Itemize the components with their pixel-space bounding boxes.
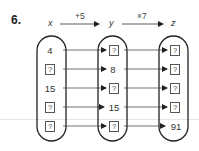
unknown-box[interactable]: ? — [109, 45, 119, 56]
header-var-x: x — [48, 18, 53, 28]
unknown-box[interactable]: ? — [45, 102, 55, 113]
unknown-box[interactable]: ? — [45, 121, 55, 132]
unknown-box[interactable]: ? — [170, 64, 180, 75]
header-var-z: z — [171, 18, 176, 28]
cell-x-5[interactable]: ? — [40, 120, 60, 132]
cell-z-3[interactable]: ? — [165, 82, 185, 94]
cell-z-2[interactable]: ? — [165, 63, 185, 75]
cell-z-5: 91 — [166, 120, 186, 132]
cell-z-1[interactable]: ? — [165, 44, 185, 56]
cell-y-1[interactable]: ? — [104, 44, 124, 56]
cell-y-4: 15 — [104, 101, 124, 113]
unknown-box[interactable]: ? — [45, 64, 55, 75]
header-op-add: +5 — [75, 11, 85, 21]
header-var-y: y — [109, 18, 114, 28]
cell-x-4[interactable]: ? — [40, 101, 60, 113]
cell-x-3: 15 — [40, 82, 60, 94]
unknown-box[interactable]: ? — [109, 121, 119, 132]
unknown-box[interactable]: ? — [109, 83, 119, 94]
header-op-multiply: ×7 — [137, 11, 147, 21]
cell-y-5[interactable]: ? — [104, 120, 124, 132]
unknown-box[interactable]: ? — [170, 83, 180, 94]
unknown-box[interactable]: ? — [170, 45, 180, 56]
cell-y-3[interactable]: ? — [104, 82, 124, 94]
cell-y-2: 8 — [103, 63, 123, 75]
cell-z-4[interactable]: ? — [165, 101, 185, 113]
unknown-box[interactable]: ? — [170, 102, 180, 113]
cell-x-1: 4 — [40, 44, 60, 56]
question-number: 6. — [11, 13, 21, 27]
cell-x-2[interactable]: ? — [40, 63, 60, 75]
